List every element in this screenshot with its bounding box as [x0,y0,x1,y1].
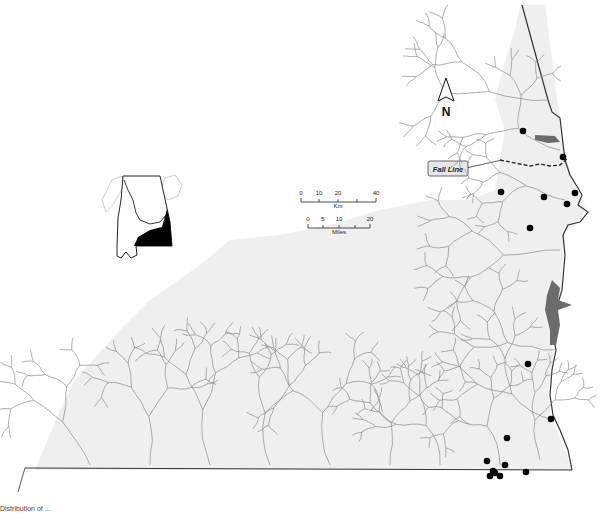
map-canvas: Fall Line N 0 10 20 40 Km 0 5 10 20 Mile… [0,0,610,513]
river-segment [559,372,569,374]
river-segment [9,426,11,438]
svg-text:5: 5 [321,216,325,222]
inset-state-map [102,175,182,258]
river-segment [425,13,429,26]
site-marker [497,473,504,480]
river-segment [433,62,462,65]
svg-text:20: 20 [335,190,342,196]
svg-text:40: 40 [373,190,380,196]
river-segment [416,136,426,146]
river-segment [60,349,72,350]
north-arrow: N [438,78,454,119]
river-segment [399,123,413,126]
svg-text:0: 0 [306,216,310,222]
river-segment [406,77,416,87]
site-marker [504,435,511,442]
figure-caption: Distribution of ... [0,505,51,512]
site-marker [484,458,491,465]
river-segment [426,136,437,146]
site-marker [520,128,527,135]
river-segment [469,178,483,182]
fall-line-label: Fall Line [433,165,463,174]
site-marker [541,194,548,201]
river-segment [426,116,431,136]
river-segment [559,362,562,371]
river-segment [437,137,447,142]
river-segment [417,57,434,68]
river-segment [436,33,438,47]
river-segment [447,137,463,138]
river-segment [477,139,486,143]
river-segment [438,130,447,137]
river-segment [575,398,589,400]
river-segment [0,381,15,384]
site-marker [527,225,534,232]
river-segment [584,387,594,388]
svg-text:Km: Km [334,203,343,209]
river-segment [403,56,417,57]
river-segment [16,372,28,376]
river-segment [494,56,496,67]
river-segment [486,143,487,157]
river-segment [448,92,490,94]
river-segment [568,360,569,370]
river-segment [465,149,473,155]
svg-text:Miles: Miles [332,229,346,235]
river-segment [582,378,584,387]
river-segment [11,401,34,409]
fall-line-leader [466,160,502,168]
state-boundary-southwest [18,468,25,492]
river-segment [429,26,445,38]
river-segment [12,367,16,384]
river-segment [485,63,496,67]
site-marker [490,468,497,475]
river-segment [0,409,11,411]
site-marker [523,469,530,476]
river-segment [487,158,501,173]
river-segment [462,62,490,92]
river-segment [404,126,413,137]
river-segment [448,153,457,159]
river-segment [28,375,45,376]
river-segment [416,65,433,77]
river-segment [72,350,80,365]
river-segment [442,5,447,18]
river-segment [552,66,561,73]
river-segment [588,395,596,400]
svg-text:10: 10 [336,216,343,222]
river-segment [474,182,483,193]
river-segment [452,139,466,146]
river-segment [486,139,495,144]
river-segment [72,338,73,350]
site-marker [548,416,555,423]
river-segment [413,116,431,126]
river-segment [430,12,443,18]
river-segment [414,43,417,57]
river-segment [2,426,9,436]
site-marker [498,189,505,196]
river-segment [22,361,34,363]
river-segment [588,400,594,408]
scale-bar-km: 0 10 20 40 Km [299,190,380,209]
river-segment [34,362,46,375]
river-segment [30,350,33,362]
river-segment [466,186,472,194]
river-segment [445,38,461,62]
river-segment [473,155,487,158]
river-segment [461,178,469,184]
river-segment [9,409,11,426]
svg-text:10: 10 [316,190,323,196]
river-segment [463,134,486,138]
river-segment [15,384,34,400]
river-segment [416,20,429,26]
river-segment [435,47,438,67]
svg-text:0: 0 [299,190,303,196]
river-segment [561,374,573,381]
river-segment [11,355,12,367]
river-segment [575,388,584,398]
svg-text:20: 20 [367,216,374,222]
river-segment [446,129,452,139]
river-segment [34,401,63,422]
river-segment [45,375,67,387]
river-segment [573,373,583,374]
